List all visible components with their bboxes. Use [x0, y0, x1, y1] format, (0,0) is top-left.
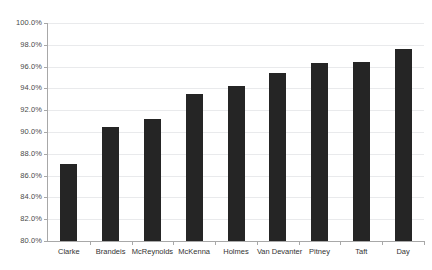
bar[interactable] — [186, 94, 203, 241]
bar-chart: 100.0%98.0%96.0%94.0%92.0%90.0%88.0%86.0… — [0, 0, 432, 270]
x-axis-tick-mark — [173, 241, 174, 245]
x-axis-category-label: Brandeis — [90, 247, 132, 256]
y-axis-tick-label: 98.0% — [0, 41, 42, 49]
y-axis-tick-label: 94.0% — [0, 84, 42, 92]
bar-series — [48, 23, 424, 241]
x-axis-tick-mark — [299, 241, 300, 245]
bar[interactable] — [60, 164, 77, 241]
y-axis-tick-label: 80.0% — [0, 237, 42, 245]
x-axis-category-label: Taft — [340, 247, 382, 256]
y-axis-tick-label: 90.0% — [0, 128, 42, 136]
x-axis-tick-mark — [90, 241, 91, 245]
x-axis-line — [47, 241, 424, 242]
x-axis-tick-mark — [340, 241, 341, 245]
x-axis-tick-mark — [424, 241, 425, 245]
bar[interactable] — [228, 86, 245, 241]
y-axis-tick-label: 84.0% — [0, 193, 42, 201]
x-axis-tick-mark — [257, 241, 258, 245]
x-axis-category-label: Van Devanter — [257, 247, 299, 256]
x-axis-tick-mark — [382, 241, 383, 245]
x-axis-category-label: Clarke — [48, 247, 90, 256]
x-axis-tick-mark — [215, 241, 216, 245]
y-axis-tick-label: 92.0% — [0, 106, 42, 114]
x-axis-tick-mark — [132, 241, 133, 245]
bar[interactable] — [144, 119, 161, 241]
x-axis-category-label: Day — [382, 247, 424, 256]
x-axis-category-label: McReynolds — [132, 247, 174, 256]
bar[interactable] — [353, 62, 370, 241]
bar[interactable] — [395, 49, 412, 241]
y-axis-tick-label: 96.0% — [0, 63, 42, 71]
bar[interactable] — [311, 63, 328, 241]
x-axis-category-label: Holmes — [215, 247, 257, 256]
y-axis-tick-label: 86.0% — [0, 172, 42, 180]
y-axis-tick-label: 88.0% — [0, 150, 42, 158]
y-axis-tick-label: 100.0% — [0, 19, 42, 27]
x-axis-category-label: Pitney — [299, 247, 341, 256]
bar[interactable] — [269, 73, 286, 241]
bar[interactable] — [102, 127, 119, 241]
y-axis-tick-mark — [44, 241, 48, 242]
y-axis-tick-label: 82.0% — [0, 215, 42, 223]
x-axis-category-label: McKenna — [173, 247, 215, 256]
